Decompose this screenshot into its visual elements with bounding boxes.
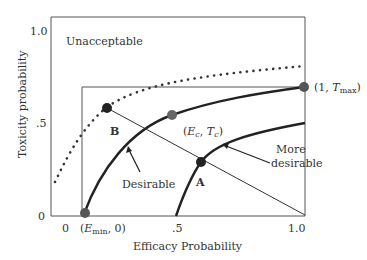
y-tick-05: .5 [36, 117, 47, 130]
y-axis-title: Toxicity probability [16, 50, 29, 158]
point-b [102, 103, 112, 113]
point-b-label: B [110, 125, 119, 138]
point-ec-tc [167, 110, 177, 120]
point-tmax [299, 82, 309, 92]
point-a-label: A [195, 176, 205, 189]
more-desirable-arrow [226, 146, 270, 163]
point-a [196, 157, 206, 167]
y-tick-0: 0 [38, 210, 45, 223]
x-tick-1: 1.0 [288, 222, 306, 235]
x-tick-0: 0 [62, 222, 69, 235]
x-axis-title: Efficacy Probability [133, 240, 243, 253]
chart: Unacceptable Desirable More desirable A … [0, 0, 367, 260]
ec-tc-label: (Ec, Tc) [183, 125, 223, 139]
emin-label: (Emin, 0) [80, 222, 126, 236]
desirable-label: Desirable [122, 178, 175, 191]
x-tick-05: .5 [172, 222, 183, 235]
y-tick-1: 1.0 [30, 25, 48, 38]
desirable-arrowhead-icon [126, 146, 132, 153]
target-contour [84, 87, 304, 214]
more-desirable-label-1: More [276, 143, 306, 156]
unacceptable-label: Unacceptable [66, 35, 143, 48]
point-emin [80, 208, 90, 218]
desirable-arrow [129, 150, 140, 172]
tmax-label: (1, Tmax) [314, 81, 361, 95]
more-desirable-label-2: desirable [271, 157, 323, 170]
dotted-contour [55, 66, 305, 182]
